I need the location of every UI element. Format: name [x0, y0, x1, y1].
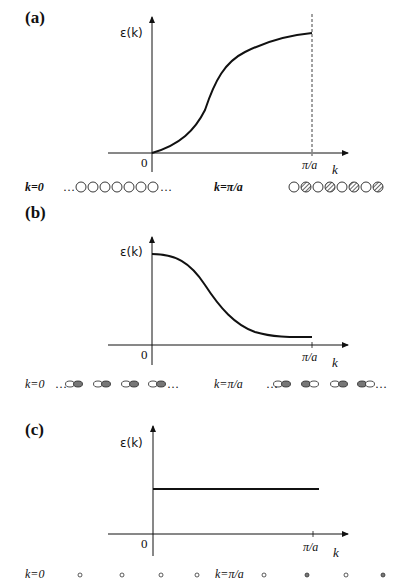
panel-b-ellipsis-left-end: …	[167, 377, 179, 392]
panel-c-origin: 0	[141, 536, 148, 552]
panel-b-ellipsis-left: …	[55, 377, 67, 392]
panel-a-zero-orbitals	[76, 182, 158, 192]
panel-c-ylabel: ε(k)	[120, 436, 143, 450]
panel-b-xlabel: k	[332, 355, 338, 371]
panel-c-label: (c)	[25, 420, 44, 440]
panel-c-xlabel: k	[333, 545, 339, 561]
panel-b-xtick: π/a	[302, 350, 317, 365]
panel-b-origin: 0	[141, 347, 148, 363]
panel-b-ellipsis-right: …	[266, 377, 278, 392]
panel-a-xtick: π/a	[302, 158, 317, 173]
panel-b-axes	[108, 237, 348, 365]
panel-b-curve	[152, 254, 312, 337]
panel-b-ellipsis-right-end: …	[375, 377, 387, 392]
panel-b-kpi-label: k=π/a	[214, 377, 243, 392]
panel-a-pi-orbitals	[289, 182, 383, 192]
panel-b-pi-orbitals	[274, 381, 375, 387]
panel-a-ylabel: ε(k)	[120, 26, 143, 40]
panel-c-xtick: π/a	[303, 540, 318, 555]
panel-a-label: (a)	[25, 8, 45, 28]
panel-c-kpi-label: k=π/a	[215, 567, 244, 582]
panel-c-k0-label: k=0	[25, 567, 44, 582]
panel-a-origin: 0	[141, 155, 148, 171]
panel-a-ellipsis-left: …	[63, 180, 75, 195]
panel-a-kpi-label: k=π/a	[214, 180, 243, 195]
panel-a-k0-label: k=0	[25, 180, 44, 195]
panel-a-ellipsis-right: …	[160, 180, 172, 195]
panel-a-xlabel: k	[332, 162, 338, 178]
panel-b-ylabel: ε(k)	[120, 245, 143, 259]
panel-b-zero-orbitals	[66, 381, 166, 387]
panel-b-k0-label: k=0	[25, 377, 44, 392]
panel-a-curve	[152, 33, 312, 153]
band-diagram-figure	[0, 0, 405, 582]
panel-a-axes	[108, 14, 348, 172]
panel-b-label: (b)	[25, 203, 46, 223]
